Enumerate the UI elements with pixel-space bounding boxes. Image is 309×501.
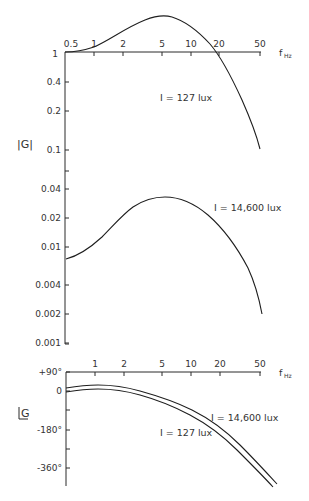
y-tick-label: 0.001: [35, 338, 61, 348]
phase-ylabel-text: G: [21, 407, 30, 420]
mag-y-ticks: 0.40.20.10.040.020.010.0040.0020.001: [35, 77, 69, 348]
y-tick-label: 0.2: [47, 106, 61, 116]
phase-curve-127-lux: [66, 389, 273, 487]
y-tick-label: -180°: [37, 425, 62, 435]
phase-ylabel: G: [19, 407, 30, 420]
mag-curve-127-lux: [65, 16, 260, 149]
phase-annotation-127-lux: I = 127 lux: [160, 427, 213, 438]
x-tick-label: 10: [185, 39, 197, 49]
y-tick-label: 0.1: [47, 145, 61, 155]
y-tick-label: 0.04: [41, 184, 61, 194]
y-tick-label: 0.4: [47, 77, 62, 87]
bode-plot: 0.5125102050 0.40.20.10.040.020.010.0040…: [0, 0, 309, 501]
y-tick-label: 0.01: [41, 242, 61, 252]
freq-label-f: f: [279, 47, 283, 58]
x-tick-label: 0.5: [64, 39, 78, 49]
freq-label-sub: Hz: [284, 52, 292, 59]
annotation-127-lux: I = 127 lux: [160, 92, 213, 103]
phase-x-ticks: 125102050: [92, 359, 266, 376]
x-tick-label: 20: [213, 39, 225, 49]
x-tick-label: 2: [120, 39, 126, 49]
y-tick-label: -360°: [37, 463, 62, 473]
x-tick-label: 5: [159, 39, 165, 49]
x-tick-label: 50: [254, 39, 266, 49]
magnitude-axes: 0.5125102050 0.40.20.10.040.020.010.0040…: [35, 39, 266, 348]
y-tick-label: 0.004: [35, 280, 61, 290]
y-tick-label: +90°: [39, 367, 63, 377]
phase-y-ticks: +90°0-180°-360°: [37, 367, 70, 473]
annotation-14600-lux: I = 14,600 lux: [214, 202, 282, 213]
x-tick-label: 1: [92, 359, 98, 369]
mag-freq-label: f Hz: [279, 47, 292, 59]
y-tick-label: 0.002: [35, 309, 61, 319]
mag-ylabel: |G|: [17, 138, 33, 151]
mag-y-label-1: 1: [52, 49, 58, 59]
phase-annotation-14600-lux: I = 14,600 lux: [211, 412, 279, 423]
x-tick-label: 20: [214, 359, 226, 369]
y-tick-label: 0: [56, 386, 62, 396]
x-tick-label: 2: [121, 359, 127, 369]
x-tick-label: 50: [254, 359, 266, 369]
freq-label-f: f: [279, 367, 283, 378]
x-tick-label: 5: [159, 359, 165, 369]
x-tick-label: 10: [185, 359, 197, 369]
y-tick-label: 0.02: [41, 213, 61, 223]
phase-freq-label: f Hz: [279, 367, 292, 379]
freq-label-sub: Hz: [284, 372, 292, 379]
mag-curve-14600-lux: [66, 197, 262, 314]
